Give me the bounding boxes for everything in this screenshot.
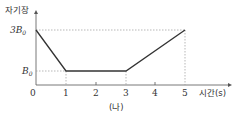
data-line <box>36 30 185 71</box>
x-tick-1: 1 <box>63 88 69 98</box>
x-tick-3: 3 <box>123 88 129 98</box>
x-tick-0: 0 <box>30 88 36 98</box>
x-tick-4: 4 <box>152 88 158 98</box>
chart-canvas: 자기장 3B0 B0 0 1 2 3 4 5 시간(s) (나) <box>0 0 236 121</box>
x-axis-arrow-icon <box>228 83 232 87</box>
figure-caption: (나) <box>109 102 124 112</box>
y-axis-label: 자기장 <box>5 5 29 15</box>
x-axis-label: 시간(s) <box>199 88 226 98</box>
y-tick-3b0: 3B0 <box>10 25 26 36</box>
y-tick-b0: B0 <box>21 66 33 77</box>
x-tick-2: 2 <box>93 88 99 98</box>
x-tick-5: 5 <box>182 88 188 98</box>
y-axis-arrow-icon <box>34 10 38 14</box>
